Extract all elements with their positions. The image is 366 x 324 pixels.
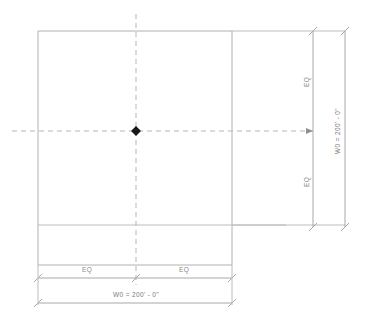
right-overall-dimension-group: W0 = 200' - 0" [334,27,349,231]
witness-lines-group [38,265,232,305]
right-top-eq-label: EQ [303,77,311,87]
right-overall-dimension-label: W0 = 200' - 0" [334,108,341,154]
bottom-overall-dimension-group: W0 = 200' - 0" [34,291,236,307]
bottom-right-eq-label: EQ [179,266,189,274]
right-eq-dimension-group: EQ EQ [303,27,317,231]
building-outline-group [38,31,232,265]
center-point-marker[interactable] [131,126,141,136]
right-eq-arrowhead [306,128,313,134]
bottom-left-eq-label: EQ [82,266,92,274]
right-bottom-eq-label: EQ [303,177,311,187]
cad-drawing-svg: EQ EQ W0 = 200' - 0" EQ EQ [0,0,366,324]
bottom-overall-dimension-label: W0 = 200' - 0" [113,291,159,298]
cad-drawing-canvas: EQ EQ W0 = 200' - 0" EQ EQ [0,0,366,324]
bottom-eq-dimension-group: EQ EQ [34,266,236,282]
